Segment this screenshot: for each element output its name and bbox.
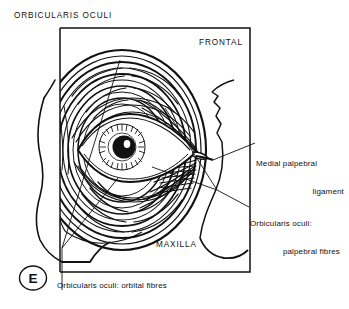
label-palpebral-fibres-line1: Orbicularis oculi: [250,219,346,228]
label-frontal-bone: FRONTAL [199,38,243,48]
label-orbicularis-oculi-orbital-fibres: Orbicularis oculi: orbital fibres [57,281,167,290]
label-orbicularis-oculi-palpebral-fibres: Orbicularis oculi: palpebral fibres [250,200,346,276]
anatomy-figure: ORBICULARIS OCULI FRONTAL MAXILLA Medial… [0,0,349,309]
panel-letter: E [21,266,45,290]
label-maxilla-bone: MAXILLA [156,240,197,250]
label-orbicularis-oculi-title: ORBICULARIS OCULI [14,11,112,21]
label-palpebral-fibres-line2: palpebral fibres [250,247,346,256]
pupil [113,136,136,159]
corneal-highlight [124,140,131,148]
label-medial-palpebral-ligament-line1: Medial palpebral [256,159,344,168]
label-medial-palpebral-ligament-line2: ligament [256,187,344,196]
